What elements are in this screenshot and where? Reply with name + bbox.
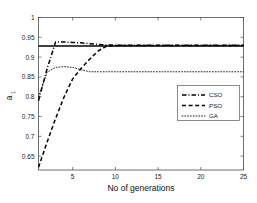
line-chart: 0.650.70.750.80.850.90.951 510152025 No … [0, 0, 257, 203]
x-tick-label: 15 [154, 173, 162, 180]
y-axis-title-subscript: 1 [10, 91, 16, 94]
x-tick-label: 10 [112, 173, 120, 180]
y-tick-label: 0.9 [25, 54, 34, 61]
y-axis-title-text: a [4, 95, 14, 100]
y-tick-label: 0.8 [25, 93, 34, 100]
y-tick-label: 0.85 [22, 73, 35, 80]
x-axis-title: No of generations [107, 183, 174, 193]
y-tick-label: 0.75 [22, 113, 35, 120]
y-axis-title: a 1 [4, 91, 16, 100]
y-axis-tick-labels: 0.650.70.750.80.850.90.951 [22, 14, 35, 160]
x-tick-label: 20 [197, 173, 205, 180]
x-tick-label: 25 [240, 173, 248, 180]
figure-container: 0.650.70.750.80.850.90.951 510152025 No … [0, 0, 257, 203]
legend-label-pso: PSO [209, 102, 222, 109]
y-tick-label: 0.65 [22, 153, 35, 160]
x-axis-tick-labels: 510152025 [71, 173, 248, 180]
y-tick-label: 0.95 [22, 34, 35, 41]
legend[interactable]: CSOPSOGA [178, 86, 240, 121]
legend-label-ga: GA [209, 112, 219, 119]
y-tick-label: 0.7 [25, 133, 34, 140]
y-tick-label: 1 [31, 14, 35, 21]
legend-label-cso: CSO [209, 91, 223, 98]
x-tick-label: 5 [71, 173, 75, 180]
